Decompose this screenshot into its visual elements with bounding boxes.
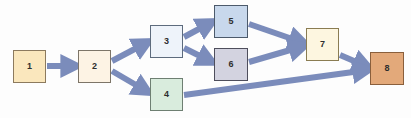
node-6[interactable]: 6 [214,48,248,81]
diagram-canvas: 1 2 3 4 5 6 7 8 [0,0,411,118]
edge-2-to-3 [112,42,148,61]
edge-layer [0,0,411,118]
node-2[interactable]: 2 [78,50,111,83]
edge-2-to-4 [112,71,148,92]
edge-4-to-8 [184,70,368,95]
node-7-label: 7 [320,40,325,49]
node-2-label: 2 [92,62,97,71]
node-5-label: 5 [228,17,233,26]
node-8-label: 8 [384,64,389,73]
node-5[interactable]: 5 [214,5,248,38]
edge-3-to-5 [184,22,212,37]
edge-3-to-6 [184,48,212,62]
node-3-label: 3 [164,37,169,46]
node-1[interactable]: 1 [13,50,46,83]
node-8[interactable]: 8 [370,52,404,85]
node-3[interactable]: 3 [150,25,183,58]
edge-5-to-7 [249,24,304,43]
node-4[interactable]: 4 [150,78,183,111]
node-1-label: 1 [27,62,32,71]
node-6-label: 6 [228,60,233,69]
edge-6-to-7 [249,46,304,62]
node-7[interactable]: 7 [306,28,339,61]
node-4-label: 4 [164,90,169,99]
edge-7-to-8 [340,55,368,67]
